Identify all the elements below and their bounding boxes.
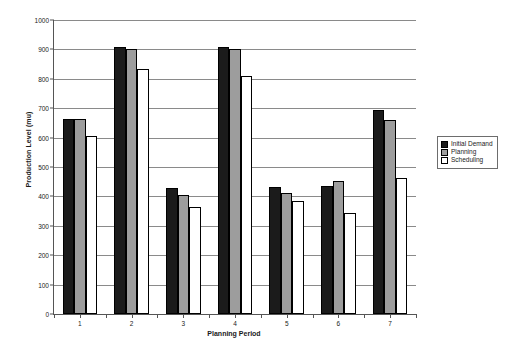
- bar[interactable]: [189, 207, 201, 314]
- x-tick-mark: [80, 314, 81, 318]
- x-tick-mark: [183, 314, 184, 318]
- y-tick-label: 800: [38, 75, 49, 82]
- y-tick-label: 100: [38, 281, 49, 288]
- y-tick-label: 900: [38, 46, 49, 53]
- x-tick-boundary: [106, 314, 107, 318]
- bar[interactable]: [74, 119, 86, 315]
- legend-item[interactable]: Scheduling: [441, 157, 493, 164]
- bar[interactable]: [63, 119, 75, 315]
- legend-label: Scheduling: [451, 157, 483, 164]
- bar[interactable]: [137, 69, 149, 314]
- legend-label: Planning: [451, 149, 476, 156]
- bar-group: [321, 20, 356, 314]
- y-axis-title: Production Level (mu): [25, 70, 32, 230]
- bar[interactable]: [396, 178, 408, 314]
- x-tick-boundary: [416, 314, 417, 318]
- bars-layer: [54, 20, 416, 314]
- bar-group: [218, 20, 253, 314]
- bar[interactable]: [333, 181, 345, 314]
- legend-label: Initial Demand: [451, 141, 493, 148]
- y-tick-label: 500: [38, 164, 49, 171]
- y-tick-label: 400: [38, 193, 49, 200]
- bar[interactable]: [241, 76, 253, 314]
- x-tick-mark: [390, 314, 391, 318]
- x-tick-mark: [338, 314, 339, 318]
- x-tick-boundary: [364, 314, 365, 318]
- y-tick-label: 600: [38, 134, 49, 141]
- bar[interactable]: [384, 120, 396, 314]
- x-tick-label: 4: [233, 320, 237, 327]
- bar-group: [373, 20, 408, 314]
- y-tick-label: 1000: [35, 17, 49, 24]
- legend-swatch-icon: [441, 141, 448, 148]
- legend-swatch-icon: [441, 157, 448, 164]
- x-tick-boundary: [54, 314, 55, 318]
- bar[interactable]: [321, 186, 333, 314]
- bar[interactable]: [166, 188, 178, 314]
- x-tick-boundary: [157, 314, 158, 318]
- bar[interactable]: [292, 201, 304, 314]
- bar[interactable]: [269, 187, 281, 314]
- bar-group: [166, 20, 201, 314]
- chart-legend: Initial DemandPlanningScheduling: [437, 136, 498, 169]
- bar-group: [63, 20, 98, 314]
- bar[interactable]: [218, 47, 230, 314]
- bar[interactable]: [126, 49, 138, 314]
- bar[interactable]: [86, 136, 98, 314]
- y-tick-label: 700: [38, 105, 49, 112]
- legend-swatch-icon: [441, 149, 448, 156]
- legend-item[interactable]: Planning: [441, 149, 493, 156]
- bar-group: [269, 20, 304, 314]
- bar[interactable]: [114, 47, 126, 314]
- bar[interactable]: [344, 213, 356, 314]
- x-tick-label: 7: [388, 320, 392, 327]
- x-tick-boundary: [261, 314, 262, 318]
- x-tick-mark: [287, 314, 288, 318]
- plot-area: 01002003004005006007008009001000 1234567: [53, 20, 416, 315]
- y-tick-label: 0: [45, 311, 49, 318]
- x-axis-title: Planning Period: [53, 330, 415, 337]
- bar-chart: Production Level (mu) 010020030040050060…: [0, 0, 520, 355]
- y-tick-label: 200: [38, 252, 49, 259]
- x-tick-label: 5: [285, 320, 289, 327]
- y-tick-label: 300: [38, 222, 49, 229]
- x-tick-label: 2: [130, 320, 134, 327]
- x-tick-mark: [132, 314, 133, 318]
- x-tick-mark: [235, 314, 236, 318]
- bar[interactable]: [281, 193, 293, 314]
- x-tick-boundary: [313, 314, 314, 318]
- bar[interactable]: [373, 110, 385, 314]
- legend-item[interactable]: Initial Demand: [441, 141, 493, 148]
- bar[interactable]: [229, 49, 241, 314]
- x-tick-boundary: [209, 314, 210, 318]
- x-tick-label: 3: [181, 320, 185, 327]
- bar-group: [114, 20, 149, 314]
- bar[interactable]: [178, 195, 190, 314]
- x-tick-label: 1: [78, 320, 82, 327]
- x-tick-label: 6: [337, 320, 341, 327]
